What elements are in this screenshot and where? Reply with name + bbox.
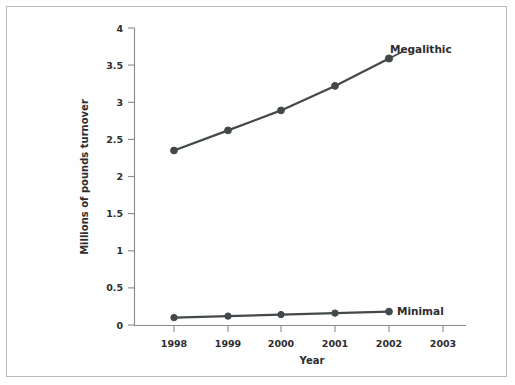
data-point <box>225 127 232 134</box>
data-point <box>171 314 177 320</box>
series-megalithic: Megalithic <box>171 43 452 154</box>
data-point <box>385 55 392 62</box>
x-tick-label: 2001 <box>322 338 348 349</box>
data-point <box>278 311 284 317</box>
series-minimal: Minimal <box>171 305 444 321</box>
data-point <box>171 147 178 154</box>
x-axis-title: Year <box>299 355 325 366</box>
data-point <box>332 310 338 316</box>
x-tick-label: 2000 <box>268 338 295 349</box>
plot-area: 4 3.5 3 2.5 2 1.5 1 0.5 0 1998 <box>0 0 515 385</box>
y-tick-label: 4 <box>116 23 123 34</box>
y-tick-label: 3 <box>116 97 123 108</box>
line-chart-svg: 4 3.5 3 2.5 2 1.5 1 0.5 0 1998 <box>0 0 515 385</box>
y-axis-title: Millions of pounds turnover <box>79 99 90 255</box>
y-tick-label: 0.5 <box>106 282 123 293</box>
x-tick-labels: 1998 1999 2000 2001 2002 2003 <box>161 338 456 349</box>
y-tick-label: 1 <box>116 245 123 256</box>
y-tick-labels: 4 3.5 3 2.5 2 1.5 1 0.5 0 <box>106 23 123 331</box>
series-label-megalithic: Megalithic <box>390 43 452 55</box>
y-tick-marks <box>128 28 135 325</box>
y-tick-label: 1.5 <box>106 208 123 219</box>
series-label-minimal: Minimal <box>397 305 444 317</box>
y-tick-label: 2.5 <box>106 134 123 145</box>
x-tick-label: 2003 <box>430 338 456 349</box>
data-point <box>332 83 339 90</box>
x-tick-label: 1999 <box>215 338 241 349</box>
chart-figure: 4 3.5 3 2.5 2 1.5 1 0.5 0 1998 <box>0 0 515 385</box>
x-tick-marks <box>174 326 443 333</box>
megalithic-line <box>174 59 389 151</box>
data-point <box>386 308 393 315</box>
y-tick-label: 2 <box>116 171 123 182</box>
data-point <box>225 313 231 319</box>
x-tick-label: 1998 <box>161 338 188 349</box>
data-point <box>278 107 285 114</box>
x-tick-label: 2002 <box>376 338 402 349</box>
y-tick-label: 0 <box>116 320 123 331</box>
y-tick-label: 3.5 <box>106 60 123 71</box>
